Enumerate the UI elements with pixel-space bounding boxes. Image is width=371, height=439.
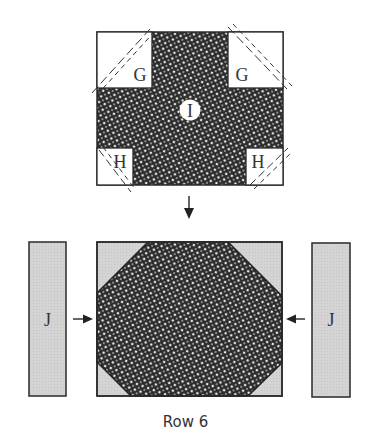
h-piece-left: H — [97, 147, 135, 192]
label-j-right: J — [327, 310, 334, 330]
label-h-right: H — [252, 152, 265, 172]
label-g-right: G — [236, 65, 249, 85]
top-block: G G H H I — [92, 24, 292, 192]
j-strip-right: J — [312, 243, 350, 397]
right-arrow-icon — [73, 315, 93, 324]
left-arrow-icon — [286, 315, 305, 324]
octagon-block — [97, 242, 282, 396]
label-g-left: G — [134, 65, 147, 85]
row-6-diagram: G G H H I — [0, 0, 371, 439]
g-piece-left: G — [92, 29, 155, 95]
label-h-left: H — [114, 152, 127, 172]
down-arrow-icon — [184, 196, 194, 219]
bottom-row: J J — [29, 242, 350, 397]
label-j-left: J — [44, 310, 51, 330]
caption: Row 6 — [0, 413, 371, 431]
g-piece-right: G — [228, 24, 292, 89]
label-i: I — [187, 101, 193, 121]
j-strip-left: J — [29, 242, 66, 396]
i-piece-label: I — [180, 100, 201, 121]
h-piece-right: H — [246, 148, 292, 189]
